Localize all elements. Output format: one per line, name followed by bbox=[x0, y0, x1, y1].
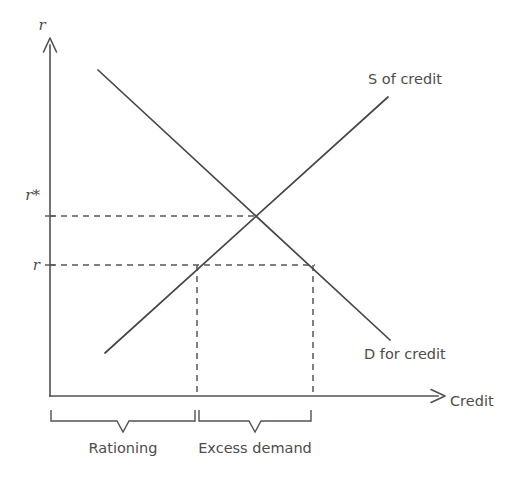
demand-curve-label: D for credit bbox=[364, 346, 446, 362]
demand-curve-line bbox=[98, 70, 390, 340]
x-axis-label: Credit bbox=[450, 393, 494, 409]
bracket-rationing: Rationing bbox=[51, 410, 195, 456]
supply-curve-line bbox=[105, 97, 388, 353]
y-tick-label-r: r bbox=[33, 256, 41, 274]
y-axis-label: r bbox=[38, 16, 46, 34]
credit-market-chart: r Credit r* r S of credit bbox=[0, 0, 518, 478]
rationing-bracket-shape bbox=[51, 410, 195, 432]
guide-lines bbox=[50, 216, 315, 394]
rationing-bracket-label: Rationing bbox=[89, 440, 158, 456]
excess-demand-bracket-label: Excess demand bbox=[198, 440, 312, 456]
y-axis: r bbox=[38, 16, 56, 396]
y-tick-label-r-star: r* bbox=[25, 186, 40, 204]
bracket-excess-demand: Excess demand bbox=[198, 410, 312, 456]
credit-rationing-diagram: r Credit r* r S of credit bbox=[0, 0, 518, 478]
supply-curve-label: S of credit bbox=[368, 71, 442, 87]
excess-demand-bracket-shape bbox=[199, 410, 311, 432]
supply-curve: S of credit bbox=[105, 71, 442, 353]
x-axis: Credit bbox=[50, 390, 494, 410]
